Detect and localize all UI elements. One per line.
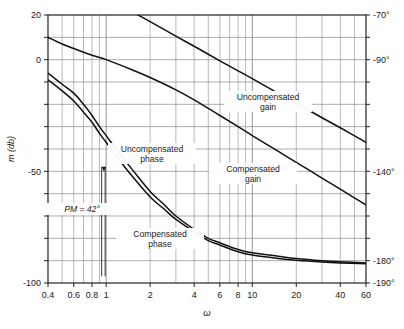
uncompensated-phase-label: Uncompensatedphase: [108, 143, 196, 164]
x-tick-label: 6: [217, 290, 222, 300]
uncompensated-gain-label: Uncompensatedgain: [224, 91, 312, 112]
x-tick-label: 8: [236, 290, 241, 300]
y-tick-label-right: -90°: [373, 55, 390, 65]
phase-margin-label: PM = 42°: [38, 203, 126, 215]
y-tick-label-left: 20: [31, 10, 41, 20]
annotation-line-1: Uncompensated: [121, 144, 184, 154]
y-tick-label-right: -180°: [373, 256, 395, 266]
x-axis-label: ω: [203, 307, 211, 318]
x-tick-label: 40: [335, 290, 345, 300]
x-tick-label: 0.4: [42, 290, 55, 300]
annotation-line-2: phase: [140, 154, 164, 164]
x-tick-label: 60: [361, 290, 371, 300]
annotation-line-1: Compensated: [133, 229, 187, 239]
x-tick-label: 2: [148, 290, 153, 300]
annotation-line-1: PM = 42°: [64, 204, 100, 214]
y-tick-label-left: 0: [36, 55, 41, 65]
x-tick-label: 1: [104, 290, 109, 300]
y-tick-label-left: -50: [28, 167, 41, 177]
y-axis-label-left: m (db): [6, 136, 16, 162]
annotation-line-1: Compensated: [226, 164, 280, 174]
y-tick-label-right: -190°: [373, 278, 395, 288]
bode-plot-figure: 0.40.60.81246810204060ω200-50-100m (db)-…: [0, 0, 404, 329]
x-tick-label: 10: [247, 290, 257, 300]
bode-plot-svg: 0.40.60.81246810204060ω200-50-100m (db)-…: [0, 0, 404, 329]
compensated-phase-label: Compensatedphase: [116, 228, 204, 249]
x-tick-label: 0.8: [86, 290, 99, 300]
y-tick-label-left: -100: [23, 278, 41, 288]
x-tick-label: 20: [291, 290, 301, 300]
y-tick-label-right: -70°: [373, 10, 390, 20]
annotation-line-2: gain: [260, 102, 276, 112]
y-tick-label-right: -140°: [373, 167, 395, 177]
annotation-line-2: phase: [148, 239, 172, 249]
x-tick-label: 4: [192, 290, 197, 300]
annotation-line-1: Uncompensated: [237, 92, 300, 102]
annotation-line-2: gain: [245, 174, 261, 184]
figure-background: [0, 0, 404, 329]
compensated-gain-label: Compensatedgain: [209, 163, 297, 184]
x-tick-label: 0.6: [67, 290, 80, 300]
